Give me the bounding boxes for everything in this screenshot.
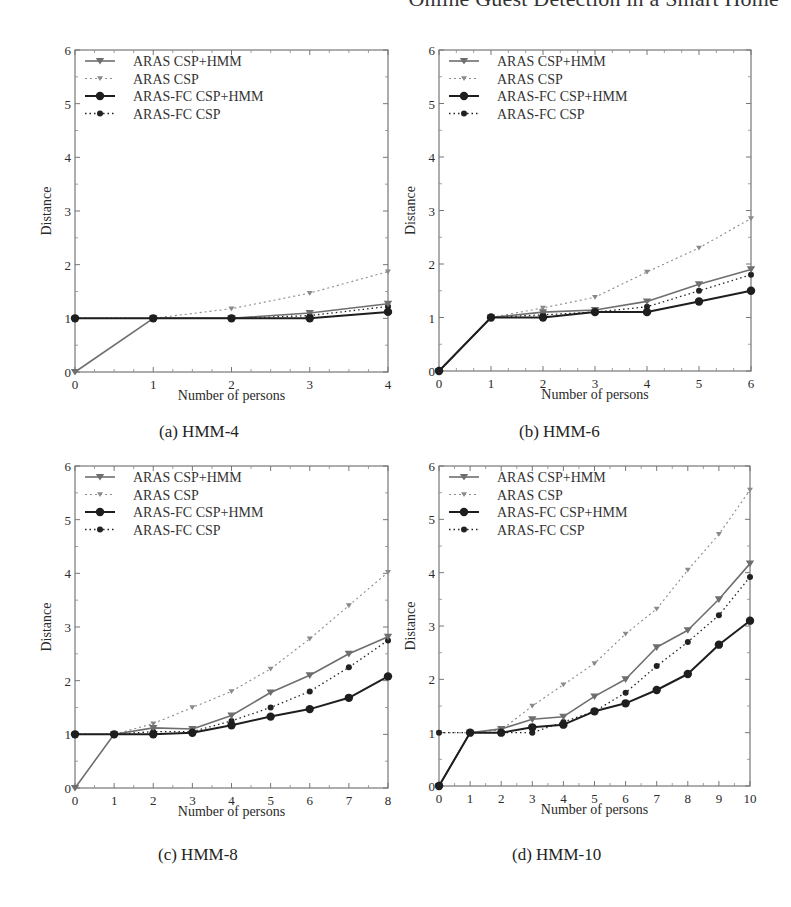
circle-marker-icon [559, 720, 567, 728]
triangle-marker-icon [716, 532, 722, 537]
y-axis-label: Distance [403, 602, 418, 651]
y-tick-label: 3 [429, 619, 436, 634]
triangle-marker-icon [747, 488, 753, 493]
y-tick-label: 1 [429, 726, 436, 741]
circle-marker-icon [746, 616, 754, 624]
x-tick-label: 0 [436, 791, 443, 806]
line-chart-hmm-10: 0123456789100123456Number of personsDist… [0, 0, 791, 907]
triangle-marker-icon [461, 492, 467, 497]
circle-marker-icon [497, 728, 505, 736]
circle-marker-icon [654, 663, 660, 669]
circle-marker-icon [715, 640, 723, 648]
legend-item-label: ARAS-FC CSP+HMM [497, 505, 628, 520]
circle-marker-icon [685, 639, 691, 645]
triangle-marker-icon [592, 661, 598, 666]
circle-marker-icon [436, 730, 442, 736]
series-aras-fc-csp-hmm [435, 616, 754, 790]
chart-caption: (d) HMM-10 [512, 845, 601, 865]
y-tick-label: 4 [429, 566, 436, 581]
x-axis-label: Number of persons [541, 802, 648, 817]
x-tick-label: 2 [498, 791, 505, 806]
circle-marker-icon [716, 612, 722, 618]
circle-marker-icon [653, 686, 661, 694]
x-tick-label: 8 [685, 791, 692, 806]
circle-marker-icon [623, 690, 629, 696]
legend-item-label: ARAS-FC CSP [497, 523, 585, 538]
x-tick-label: 3 [529, 791, 536, 806]
circle-marker-icon [684, 670, 692, 678]
y-tick-label: 6 [429, 459, 436, 474]
y-tick-label: 5 [429, 512, 436, 527]
circle-marker-icon [460, 508, 468, 516]
x-tick-label: 9 [716, 791, 723, 806]
circle-marker-icon [621, 699, 629, 707]
triangle-marker-icon [684, 627, 692, 634]
x-tick-label: 1 [467, 791, 474, 806]
circle-marker-icon [747, 574, 753, 580]
circle-marker-icon [461, 527, 467, 533]
series-aras-csp-hmm [435, 561, 754, 790]
chart-legend: ARAS CSP+HMMARAS CSPARAS-FC CSP+HMMARAS-… [449, 470, 628, 538]
circle-marker-icon [590, 707, 598, 715]
x-tick-label: 10 [744, 791, 757, 806]
legend-item-label: ARAS CSP+HMM [497, 470, 606, 485]
triangle-marker-icon [529, 704, 535, 709]
circle-marker-icon [435, 782, 443, 790]
y-tick-label: 2 [429, 672, 436, 687]
circle-marker-icon [528, 723, 536, 731]
y-tick-label: 0 [429, 779, 436, 794]
triangle-marker-icon [621, 676, 629, 683]
legend-item-label: ARAS CSP [497, 488, 563, 503]
chart-panel-d: 0123456789100123456Number of personsDist… [0, 0, 791, 907]
circle-marker-icon [466, 728, 474, 736]
x-tick-label: 7 [653, 791, 660, 806]
